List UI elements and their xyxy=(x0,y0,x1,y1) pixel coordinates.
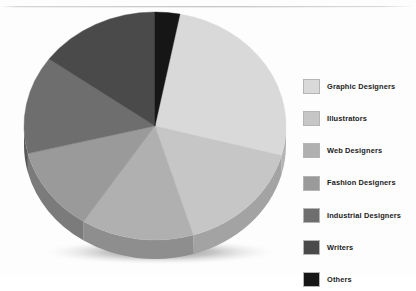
legend-item[interactable]: Industrial Designers xyxy=(303,207,415,224)
legend-item-label: Others xyxy=(327,276,352,283)
legend-color-swatch xyxy=(303,111,320,126)
legend-item[interactable]: Illustrators xyxy=(303,110,415,127)
legend-item[interactable]: Writers xyxy=(303,239,415,256)
legend-item-label: Graphic Designers xyxy=(327,83,395,90)
legend-item-label: Writers xyxy=(327,244,353,251)
legend-item-label: Fashion Designers xyxy=(327,179,396,186)
legend-item[interactable]: Others xyxy=(303,271,415,288)
legend-color-swatch xyxy=(303,79,320,94)
legend-color-swatch xyxy=(303,272,320,287)
legend-item-label: Industrial Designers xyxy=(327,212,401,219)
pie-chart-graphic: Graphic Designers: 26%Illustrators: 16%W… xyxy=(0,0,300,275)
legend-item[interactable]: Fashion Designers xyxy=(303,175,415,192)
legend-color-swatch xyxy=(303,143,320,158)
chart-legend: Graphic DesignersIllustratorsWeb Designe… xyxy=(303,78,415,291)
legend-item-label: Illustrators xyxy=(327,115,367,122)
legend-color-swatch xyxy=(303,208,320,223)
pie-chart-area: Graphic Designers: 26%Illustrators: 16%W… xyxy=(0,0,300,275)
legend-item[interactable]: Web Designers xyxy=(303,142,415,159)
legend-item-label: Web Designers xyxy=(327,147,382,154)
legend-item[interactable]: Graphic Designers xyxy=(303,78,415,95)
pie-top-slices: Graphic Designers: 26%Illustrators: 16%W… xyxy=(24,12,286,240)
legend-color-swatch xyxy=(303,176,320,191)
legend-color-swatch xyxy=(303,240,320,255)
